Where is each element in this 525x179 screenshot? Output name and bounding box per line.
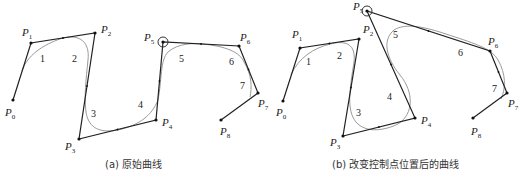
edge-midpoint xyxy=(350,87,352,89)
segment-number: 2 xyxy=(72,53,77,64)
edge-midpoint xyxy=(428,30,430,32)
control-point-3[interactable] xyxy=(77,137,80,140)
control-point-2[interactable] xyxy=(93,31,96,34)
point-label-3: P3 xyxy=(64,140,76,155)
point-label-0: P0 xyxy=(275,106,287,121)
control-point-0[interactable] xyxy=(281,99,284,102)
control-point-7[interactable] xyxy=(505,91,508,94)
point-label-2: P2 xyxy=(100,23,112,38)
control-point-5[interactable] xyxy=(161,40,164,43)
segment-number: 7 xyxy=(240,80,245,91)
point-label-8: P8 xyxy=(219,125,231,140)
segment-number: 1 xyxy=(40,53,45,64)
point-label-0: P0 xyxy=(4,106,16,121)
segment-number: 2 xyxy=(337,50,342,61)
segment-number: 3 xyxy=(356,107,361,118)
control-point-1[interactable] xyxy=(298,46,301,49)
control-point-6[interactable] xyxy=(488,49,491,52)
bezier-diagram: P0P1P2P3P4P5P6P7P81234567P0P1P2P3P4P5P6P… xyxy=(0,0,525,179)
segment-number: 7 xyxy=(492,83,497,94)
point-label-1: P1 xyxy=(21,26,33,41)
segment-number: 6 xyxy=(229,56,234,67)
edge-midpoint xyxy=(498,71,500,73)
segment-number: 4 xyxy=(387,91,392,102)
caption-b: (b) 改变控制点位置后的曲线 xyxy=(332,156,459,171)
control-point-8[interactable] xyxy=(219,118,222,121)
point-label-2: P2 xyxy=(362,23,374,38)
edge-midpoint xyxy=(200,43,202,45)
point-label-5: P5 xyxy=(143,31,155,46)
point-label-4: P4 xyxy=(420,114,432,129)
control-point-1[interactable] xyxy=(29,41,32,44)
caption-a: (a) 原始曲线 xyxy=(105,156,162,171)
point-label-6: P6 xyxy=(239,31,251,46)
edge-midpoint xyxy=(378,126,380,128)
control-point-6[interactable] xyxy=(237,44,240,47)
control-point-8[interactable] xyxy=(471,116,474,119)
segment-number: 6 xyxy=(458,47,463,58)
control-point-7[interactable] xyxy=(256,91,259,94)
segment-number: 4 xyxy=(138,99,143,110)
point-label-6: P6 xyxy=(487,35,499,50)
figure-a: P0P1P2P3P4P5P6P7P81234567 xyxy=(4,23,269,155)
control-point-3[interactable] xyxy=(341,134,344,137)
edge-midpoint xyxy=(159,80,161,82)
segment-number: 5 xyxy=(393,29,398,40)
point-label-3: P3 xyxy=(329,136,341,151)
control-point-0[interactable] xyxy=(11,98,14,101)
edge-midpoint xyxy=(86,85,88,87)
control-point-4[interactable] xyxy=(154,118,157,121)
control-point-2[interactable] xyxy=(357,37,360,40)
bspline-curve xyxy=(22,37,251,131)
edge-midpoint xyxy=(117,129,119,131)
control-point-4[interactable] xyxy=(413,116,416,119)
edge-midpoint xyxy=(62,37,64,39)
segment-number: 5 xyxy=(179,53,184,64)
figure-b: P0P1P2P3P4P5P6P7P81234567 xyxy=(275,0,519,151)
segment-number: 3 xyxy=(91,108,96,119)
point-label-4: P4 xyxy=(161,116,173,131)
edge-midpoint xyxy=(390,64,392,66)
control-polygon xyxy=(13,33,258,139)
control-point-5[interactable] xyxy=(365,9,368,12)
point-label-8: P8 xyxy=(470,125,482,140)
point-label-7: P7 xyxy=(507,97,519,112)
bspline-curve xyxy=(291,26,504,130)
point-label-7: P7 xyxy=(257,97,269,112)
edge-midpoint xyxy=(248,69,250,71)
point-label-1: P1 xyxy=(291,28,303,43)
point-label-5: P5 xyxy=(352,0,364,15)
segment-number: 1 xyxy=(306,56,311,67)
edge-midpoint xyxy=(329,43,331,45)
